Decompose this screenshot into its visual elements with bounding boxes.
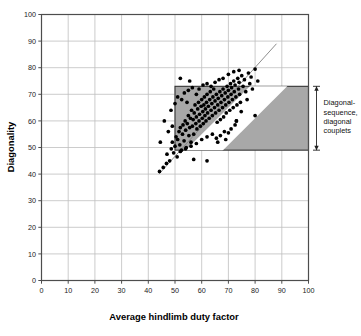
x-tick-label: 30 xyxy=(118,286,126,295)
x-tick-label: 70 xyxy=(224,286,232,295)
y-tick-label: 40 xyxy=(28,170,36,179)
y-tick-label: 30 xyxy=(28,196,36,205)
x-tick-label: 10 xyxy=(64,286,72,295)
x-tick-label: 20 xyxy=(91,286,99,295)
x-tick-label: 80 xyxy=(251,286,259,295)
annotation-line: couplets xyxy=(324,126,352,135)
y-tick-label: 0 xyxy=(32,276,36,285)
x-tick-label: 100 xyxy=(303,286,315,295)
y-tick-label: 100 xyxy=(24,10,36,19)
x-tick-label: 40 xyxy=(144,286,152,295)
x-tick-label: 50 xyxy=(171,286,179,295)
annotation-line: sequence, xyxy=(324,108,358,117)
y-axis-title: Diagonality xyxy=(5,121,16,172)
y-tick-label: 10 xyxy=(28,250,36,259)
y-tick-label: 50 xyxy=(28,143,36,152)
y-tick-label: 20 xyxy=(28,223,36,232)
scatter-plot-svg: 0102030405060708090100 01020304050607080… xyxy=(0,0,361,336)
x-tick-label: 0 xyxy=(40,286,44,295)
annotation-line: diagonal xyxy=(324,117,352,126)
x-axis-title: Average hindlimb duty factor xyxy=(109,311,239,322)
annotation-line: Diagonal- xyxy=(324,98,356,107)
x-tick-label: 90 xyxy=(278,286,286,295)
y-tick-label: 60 xyxy=(28,117,36,126)
chart-figure: 0102030405060708090100 01020304050607080… xyxy=(0,0,361,336)
x-tick-label: 60 xyxy=(198,286,206,295)
y-tick-label: 70 xyxy=(28,90,36,99)
y-tick-label: 90 xyxy=(28,37,36,46)
y-tick-label: 80 xyxy=(28,63,36,72)
